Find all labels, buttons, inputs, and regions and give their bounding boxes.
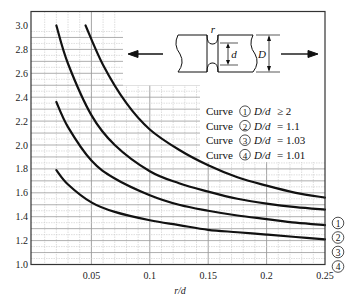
y-tick-label: 2.8: [16, 44, 29, 55]
x-axis-ticks: 0.050.10.150.20.25: [83, 270, 334, 281]
y-tick-label: 2.2: [16, 116, 29, 127]
legend-marker-number: 4: [243, 151, 248, 161]
x-tick-label: 0.1: [144, 270, 157, 281]
legend-marker-number: 1: [243, 107, 248, 117]
legend-prefix: Curve: [206, 120, 233, 132]
legend-ratio: D/d: [253, 134, 271, 146]
y-tick-label: 3.0: [16, 20, 29, 31]
x-axis-label: r/d: [174, 285, 187, 296]
legend-ratio: D/d: [253, 120, 271, 132]
legend-prefix: Curve: [206, 134, 233, 146]
y-axis-ticks: 1.01.21.41.61.82.02.22.42.62.83.0: [16, 20, 29, 270]
x-tick-label: 0.15: [199, 270, 217, 281]
y-tick-label: 1.6: [16, 187, 29, 198]
y-tick-label: 2.0: [16, 140, 29, 151]
legend-relation: = 1.03: [277, 134, 306, 146]
legend-relation: = 1.1: [277, 120, 300, 132]
x-tick-label: 0.2: [260, 270, 273, 281]
y-tick-label: 1.8: [16, 163, 29, 174]
x-tick-label: 0.25: [316, 270, 334, 281]
curve-end-number: 3: [336, 248, 341, 258]
curve-end-labels: 1234: [332, 217, 344, 272]
y-tick-label: 1.2: [16, 235, 29, 246]
legend-marker-number: 3: [243, 136, 248, 146]
y-tick-label: 2.6: [16, 68, 29, 79]
legend-relation: = 1.01: [277, 149, 305, 161]
x-tick-label: 0.05: [83, 270, 101, 281]
y-tick-label: 1.4: [16, 211, 29, 222]
curve-end-number: 4: [336, 262, 341, 272]
legend-ratio: D/d: [253, 105, 271, 117]
y-tick-label: 1.0: [16, 259, 29, 270]
legend-prefix: Curve: [206, 149, 233, 161]
curve-end-number: 2: [336, 233, 341, 243]
stress-concentration-chart: 1.01.21.41.61.82.02.22.42.62.83.0 0.050.…: [0, 0, 354, 304]
diagram-D-label: D: [257, 48, 266, 60]
legend-marker-number: 2: [243, 122, 248, 132]
legend-ratio: D/d: [253, 149, 271, 161]
legend-relation: ≥ 2: [277, 105, 291, 117]
legend-prefix: Curve: [206, 105, 233, 117]
diagram-r-label: r: [211, 23, 216, 35]
curve-end-number: 1: [336, 219, 341, 229]
diagram-d-label: d: [231, 48, 237, 60]
y-tick-label: 2.4: [16, 92, 29, 103]
